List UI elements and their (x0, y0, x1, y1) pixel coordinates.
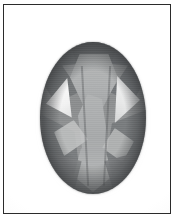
photo-grain-overlay (40, 42, 146, 194)
screenshot-canvas (0, 0, 178, 222)
photo-frame (3, 4, 171, 214)
gemstone-oval (40, 42, 146, 194)
